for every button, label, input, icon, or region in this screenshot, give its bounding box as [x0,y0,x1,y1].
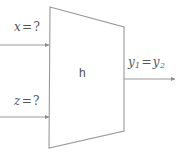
output-y2-variable: y [153,55,160,69]
input-z-variable: z [14,94,21,108]
input-z-operator: = [21,94,33,108]
output-y1-subscript: 1 [135,61,140,70]
input-x-label: x=? [14,20,40,34]
output-y-operator: = [140,55,152,69]
input-x-value: ? [33,20,40,34]
output-y2-subscript: 2 [160,61,165,70]
input-x-operator: = [21,20,33,34]
process-block-shape [49,7,124,148]
process-block-label: h [79,66,86,80]
input-z-value: ? [33,94,40,108]
output-y-label: y1=y2 [128,55,165,69]
diagram-canvas: x=? z=? y1=y2 h [0,0,179,156]
input-z-label: z=? [14,94,40,108]
